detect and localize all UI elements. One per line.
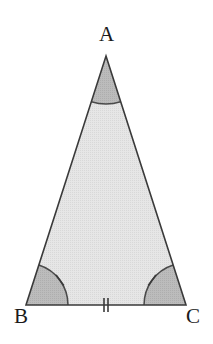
geometry-figure: A B C (0, 0, 213, 344)
vertex-label-a: A (0, 24, 213, 45)
vertex-label-b: B (14, 306, 28, 327)
triangle-diagram-svg (0, 0, 213, 344)
vertex-label-c: C (186, 306, 200, 327)
angle-sector-a (91, 56, 120, 104)
